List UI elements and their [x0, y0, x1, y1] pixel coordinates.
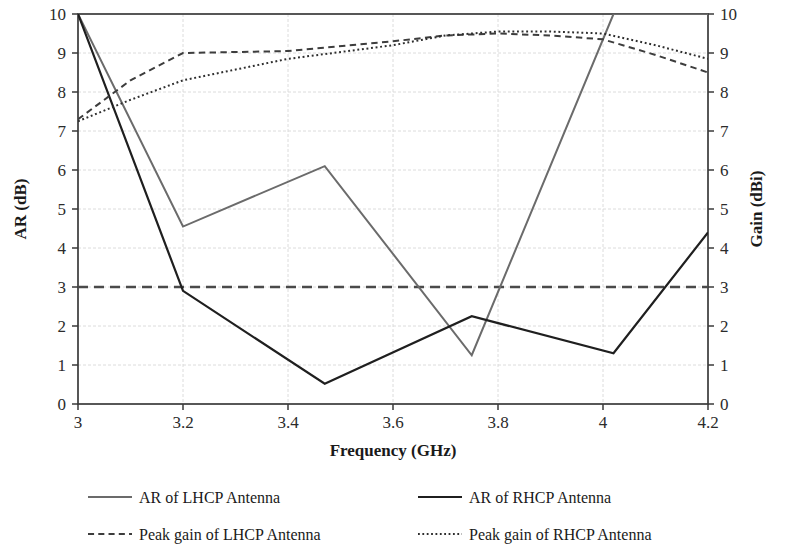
y2-axis-tick-label: 1 [720, 356, 729, 375]
legend-label: Peak gain of RHCP Antenna [469, 526, 652, 544]
y-axis-tick-label: 0 [58, 395, 67, 414]
y-axis-tick-label: 2 [58, 317, 67, 336]
y2-axis-tick-label: 6 [720, 161, 729, 180]
y-axis-title: AR (dB) [11, 179, 30, 240]
y2-axis-tick-label: 9 [720, 44, 729, 63]
y2-axis-tick-label: 8 [720, 83, 729, 102]
y-axis-tick-label: 8 [58, 83, 67, 102]
chart-background [0, 0, 785, 557]
axial-ratio-gain-chart: 012345678910 012345678910 33.23.43.63.84… [0, 0, 785, 557]
y2-axis-tick-label: 3 [720, 278, 729, 297]
y-axis-tick-label: 3 [58, 278, 67, 297]
y-axis-tick-label: 4 [58, 239, 67, 258]
y2-axis-tick-label: 0 [720, 395, 729, 414]
y2-axis-tick-label: 2 [720, 317, 729, 336]
y2-axis-tick-label: 5 [720, 200, 729, 219]
chart-figure: 012345678910 012345678910 33.23.43.63.84… [0, 0, 785, 557]
y-axis-tick-label: 5 [58, 200, 67, 219]
x-axis-tick-label: 4 [599, 413, 608, 432]
y-axis-tick-label: 10 [49, 5, 66, 24]
x-axis-title: Frequency (GHz) [330, 441, 457, 460]
x-axis-tick-label: 4.2 [697, 413, 718, 432]
x-axis-tick-label: 3.2 [172, 413, 193, 432]
y-axis-tick-label: 7 [58, 122, 67, 141]
legend-label: AR of RHCP Antenna [469, 489, 611, 506]
y-axis-tick-label: 9 [58, 44, 67, 63]
y2-axis-tick-label: 4 [720, 239, 729, 258]
legend-label: Peak gain of LHCP Antenna [139, 526, 321, 544]
x-axis-tick-label: 3.6 [382, 413, 403, 432]
legend-label: AR of LHCP Antenna [139, 489, 280, 506]
y-axis-tick-label: 1 [58, 356, 67, 375]
y-axis-tick-label: 6 [58, 161, 67, 180]
x-axis-tick-label: 3.4 [277, 413, 299, 432]
y2-axis-title: Gain (dBi) [747, 171, 766, 248]
x-axis-tick-label: 3 [74, 413, 83, 432]
x-axis-tick-label: 3.8 [487, 413, 508, 432]
y2-axis-tick-label: 10 [720, 5, 737, 24]
y2-axis-tick-label: 7 [720, 122, 729, 141]
